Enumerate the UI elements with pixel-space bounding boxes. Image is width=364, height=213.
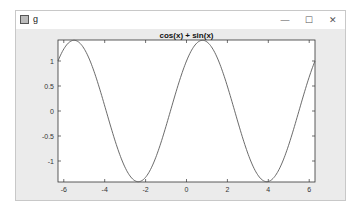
x-tick-label: 2	[225, 186, 229, 193]
maximize-button[interactable]: ☐	[299, 12, 319, 28]
title-bar[interactable]: g — ☐ ✕	[16, 11, 345, 29]
close-button[interactable]: ✕	[323, 12, 343, 28]
x-tick-label: 6	[307, 186, 311, 193]
x-tick-label: 0	[185, 186, 189, 193]
y-tick-label: 1	[50, 58, 54, 65]
y-tick-label: -1	[48, 158, 54, 165]
figure-canvas: cos(x) + sin(x) -6-4-2024610.50-0.5-1	[16, 29, 345, 200]
plot-svg: cos(x) + sin(x) -6-4-2024610.50-0.5-1	[16, 29, 347, 202]
figure-app-icon	[20, 15, 29, 24]
figure-window: g — ☐ ✕ cos(x) + sin(x) -6-4-2024610.50-…	[15, 10, 346, 201]
x-tick-label: 4	[266, 186, 270, 193]
y-tick-label: 0	[50, 108, 54, 115]
x-tick-label: -6	[61, 186, 67, 193]
y-tick-label: -0.5	[42, 133, 54, 140]
minimize-button[interactable]: —	[275, 12, 295, 28]
window-title: g	[33, 14, 38, 24]
x-tick-label: -2	[142, 186, 148, 193]
y-tick-label: 0.5	[44, 83, 54, 90]
chart-title: cos(x) + sin(x)	[159, 31, 213, 40]
x-tick-label: -4	[102, 186, 108, 193]
